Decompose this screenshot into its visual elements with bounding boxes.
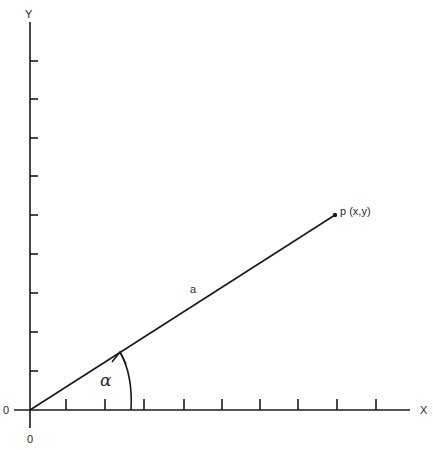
point-label: p (x,y): [340, 206, 371, 217]
origin-left-label: 0: [3, 405, 9, 416]
x-axis-label: X: [420, 405, 427, 416]
x-axis-ticks: [66, 399, 376, 410]
coordinate-diagram: [0, 0, 433, 450]
y-axis-label: Y: [25, 9, 32, 20]
origin-bottom-label: 0: [27, 434, 33, 445]
angle-arc: [120, 352, 131, 410]
angle-label: α: [100, 372, 111, 389]
point-p: [333, 213, 337, 217]
vector-a: [30, 215, 335, 410]
vector-label: a: [190, 284, 196, 295]
y-axis-ticks: [30, 61, 38, 371]
